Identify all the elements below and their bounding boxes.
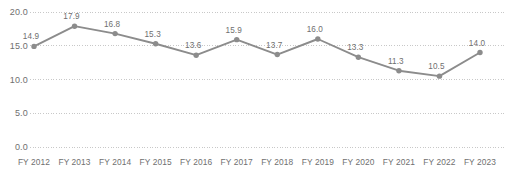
y-axis-tick-label: 20.0	[0, 7, 28, 17]
data-value-label: 14.0	[460, 39, 494, 48]
data-point-marker	[72, 23, 77, 28]
data-value-label: 15.3	[136, 30, 170, 39]
data-value-label: 10.5	[419, 62, 453, 71]
data-point-marker	[437, 73, 442, 78]
data-point-marker	[396, 68, 401, 73]
data-point-marker	[356, 55, 361, 60]
gridlines	[30, 12, 505, 147]
data-value-label: 16.8	[95, 20, 129, 29]
data-point-marker	[193, 53, 198, 58]
plot-area: 0.05.010.015.020.0 FY 2012FY 2013FY 2014…	[0, 0, 507, 175]
data-point-marker	[153, 41, 158, 46]
data-point-marker	[477, 50, 482, 55]
data-value-label: 13.3	[338, 43, 372, 52]
data-value-label: 11.3	[379, 57, 413, 66]
data-value-label: 17.9	[55, 12, 89, 21]
data-point-marker	[112, 31, 117, 36]
data-value-label: 15.9	[217, 26, 251, 35]
data-series-line	[34, 26, 480, 76]
line-chart: 0.05.010.015.020.0 FY 2012FY 2013FY 2014…	[0, 0, 507, 175]
data-point-marker	[315, 36, 320, 41]
x-axis-tick-label: FY 2023	[456, 157, 504, 167]
data-value-label: 16.0	[298, 25, 332, 34]
data-point-marker	[234, 37, 239, 42]
data-value-label: 13.6	[176, 41, 210, 50]
y-axis-tick-label: 15.0	[0, 41, 28, 51]
data-point-markers	[31, 23, 482, 78]
series-polyline	[34, 26, 480, 76]
data-value-label: 14.9	[14, 32, 48, 41]
y-axis-tick-label: 5.0	[0, 108, 28, 118]
data-point-marker	[31, 44, 36, 49]
y-axis-tick-label: 10.0	[0, 75, 28, 85]
chart-canvas	[0, 0, 507, 175]
data-point-marker	[275, 52, 280, 57]
data-value-label: 13.7	[257, 41, 291, 50]
y-axis-tick-label: 0.0	[0, 142, 28, 152]
